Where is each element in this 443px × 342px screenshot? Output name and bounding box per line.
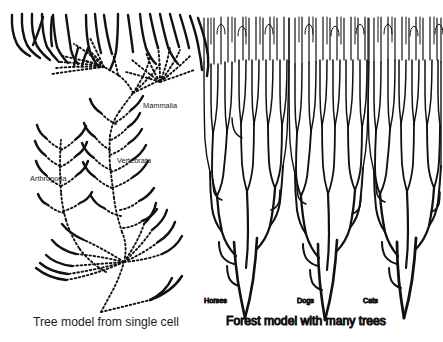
forest-label-horses: Horses bbox=[204, 296, 227, 305]
node-label-arthropoda: Arthropoda bbox=[30, 174, 67, 183]
forest-label-cats: Cats bbox=[363, 296, 378, 305]
node-label-vertebrata: Vertebrata bbox=[117, 156, 152, 165]
evolution-models-diagram: Mammalia Vertebrata Arthropoda Tree mode… bbox=[0, 0, 443, 342]
figure-root: Mammalia Vertebrata Arthropoda Tree mode… bbox=[0, 0, 443, 342]
forest-label-dogs: Dogs bbox=[297, 296, 314, 305]
node-label-mammalia: Mammalia bbox=[143, 101, 178, 110]
caption-tree-model: Tree model from single cell bbox=[33, 315, 179, 329]
caption-forest-model: Forest model with many trees bbox=[226, 314, 386, 328]
